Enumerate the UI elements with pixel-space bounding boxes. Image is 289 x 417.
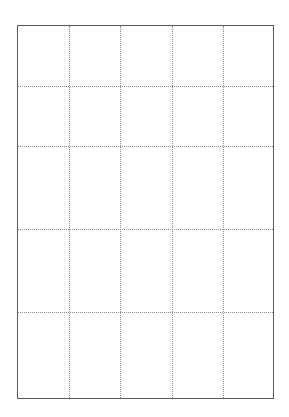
horizontal-gridline [18,86,273,87]
vertical-gridline [223,26,224,398]
vertical-gridline [69,26,70,398]
vertical-gridline [172,26,173,398]
vertical-gridline [120,26,121,398]
empty-grid [17,25,274,399]
horizontal-gridline [18,312,273,313]
horizontal-gridline [18,146,273,147]
horizontal-gridline [18,229,273,230]
